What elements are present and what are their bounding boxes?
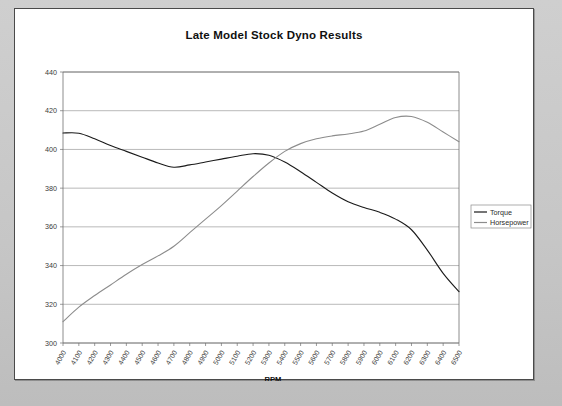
x-axis-tick-label: 6000 [370, 349, 384, 366]
x-axis-tick-label: 5800 [339, 349, 353, 366]
series-line-torque [63, 133, 459, 292]
x-axis-tick-label: 4100 [69, 349, 83, 366]
x-axis-tick-label: 5500 [291, 349, 305, 366]
x-axis-tick-label: 6500 [450, 349, 464, 366]
x-axis-tick-label: 6100 [386, 349, 400, 366]
x-axis-tick-label: 5400 [275, 349, 289, 366]
chart-legend: TorqueHorsepower [471, 205, 531, 228]
y-axis-tick-label: 440 [45, 68, 57, 77]
x-axis-tick-label: 4200 [85, 349, 99, 366]
x-axis-tick-label: 4000 [54, 349, 68, 366]
x-axis-tick-label: 6200 [402, 349, 416, 366]
x-axis-tick-label: 5000 [212, 349, 226, 366]
legend-label-horsepower: Horsepower [490, 218, 529, 227]
plot-area-wrapper: 300320340360380400420440 400041004200430… [15, 9, 535, 381]
x-axis-tick-label: 4900 [196, 349, 210, 366]
x-axis-tick-label: 5900 [354, 349, 368, 366]
x-axis-title: RPM [265, 375, 282, 381]
x-axis-tick-label: 4300 [101, 349, 115, 366]
y-axis-tick-label: 360 [45, 222, 57, 231]
x-axis-tick-label: 5200 [244, 349, 258, 366]
data-series-group [63, 116, 459, 322]
y-axis-tick-labels: 300320340360380400420440 [45, 68, 57, 348]
x-axis-tick-label: 4400 [117, 349, 131, 366]
x-axis-tick-label: 6400 [434, 349, 448, 366]
y-axis-tick-label: 400 [45, 145, 57, 154]
x-axis-tick-label: 4600 [149, 349, 163, 366]
dyno-line-chart: 300320340360380400420440 400041004200430… [15, 9, 535, 381]
x-axis-tick-label: 4700 [164, 349, 178, 366]
chart-panel: Late Model Stock Dyno Results 3003203403… [14, 8, 534, 380]
y-axis-tick-label: 320 [45, 300, 57, 309]
x-axis-tick-label: 5300 [259, 349, 273, 366]
x-axis-tick-label: 5600 [307, 349, 321, 366]
series-line-horsepower [63, 116, 459, 322]
x-axis-tick-label: 4800 [180, 349, 194, 366]
y-axis-tick-label: 380 [45, 184, 57, 193]
y-axis-tick-label: 420 [45, 106, 57, 115]
x-axis-tick-label: 4500 [133, 349, 147, 366]
gridlines-group [63, 72, 459, 343]
plot-frame [63, 72, 459, 343]
y-axis-tick-label: 300 [45, 339, 57, 348]
x-axis-tick-label: 5100 [228, 349, 242, 366]
x-axis-tick-label: 6300 [418, 349, 432, 366]
legend-label-torque: Torque [490, 208, 512, 217]
screenshot-root: Late Model Stock Dyno Results 3003203403… [0, 0, 562, 406]
y-tick-marks-group [60, 72, 63, 343]
x-tick-marks-group [63, 343, 459, 346]
y-axis-tick-label: 340 [45, 261, 57, 270]
x-axis-tick-label: 5700 [323, 349, 337, 366]
x-axis-tick-labels: 4000410042004300440045004600470048004900… [54, 349, 464, 366]
